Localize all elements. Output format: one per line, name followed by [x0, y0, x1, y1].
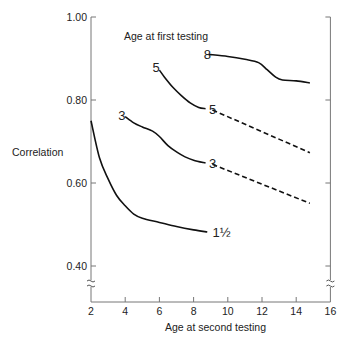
x-tick-label: 8: [191, 305, 197, 317]
series-line-age-5: [159, 70, 205, 109]
x-tick-label: 10: [222, 305, 234, 317]
series-line-age-8: [209, 54, 310, 83]
axes: 0.400.600.801.00246810121416: [67, 11, 337, 317]
axis-break-icon: [326, 280, 334, 287]
y-tick-label: 0.60: [67, 177, 88, 189]
y-tick-label: 1.00: [67, 11, 88, 23]
curve-label: 3: [209, 156, 216, 171]
curve-label: 5: [209, 102, 216, 117]
x-axis-label: Age at second testing: [165, 321, 266, 333]
x-tick-label: 6: [156, 305, 162, 317]
x-tick-label: 2: [88, 305, 94, 317]
y-axis-label: Correlation: [12, 146, 64, 158]
axis-break-icon: [87, 280, 95, 287]
x-tick-label: 14: [290, 305, 302, 317]
curve-label: 1½: [212, 225, 230, 240]
labels-group: 1½33558: [118, 47, 230, 240]
x-tick-label: 16: [325, 305, 337, 317]
correlation-line-chart: 0.400.600.801.00246810121416 1½33558 Age…: [0, 0, 345, 339]
curve-label: 5: [153, 60, 160, 75]
series-line-age-1: [91, 121, 207, 232]
series-group: [91, 54, 310, 232]
y-tick-label: 0.80: [67, 94, 88, 106]
series-line-age-3-projected: [212, 164, 309, 203]
y-tick-label: 0.40: [67, 260, 88, 272]
curve-label: 8: [204, 47, 211, 62]
series-line-age-3: [125, 117, 205, 163]
series-line-age-5-projected: [212, 110, 309, 153]
legend-title: Age at first testing: [124, 30, 208, 42]
curve-label: 3: [118, 108, 125, 123]
x-tick-label: 4: [122, 305, 128, 317]
x-tick-label: 12: [256, 305, 268, 317]
